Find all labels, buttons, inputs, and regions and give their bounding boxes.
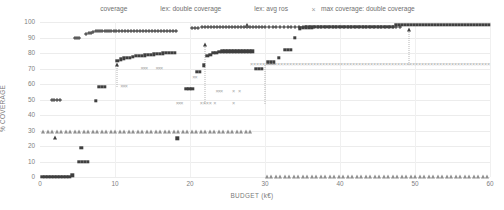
x-tick-label: 10 xyxy=(111,181,118,187)
data-point: × xyxy=(259,63,262,68)
scatter-chart: coverage lex: double coverage lex: avg r… xyxy=(0,0,504,210)
x-tick-label: 0 xyxy=(38,181,42,187)
data-point: × xyxy=(125,84,128,89)
data-point: × xyxy=(454,63,457,68)
data-point: × xyxy=(120,84,123,89)
data-point: × xyxy=(367,63,370,68)
data-point: × xyxy=(232,101,235,106)
data-point: × xyxy=(160,66,163,71)
data-point: × xyxy=(451,63,454,68)
data-point: × xyxy=(424,63,427,68)
x-marker-icon: × xyxy=(310,6,317,13)
data-point: × xyxy=(307,63,310,68)
data-point: × xyxy=(352,63,355,68)
data-point: × xyxy=(283,63,286,68)
data-point: × xyxy=(391,63,394,68)
data-point: × xyxy=(400,63,403,68)
data-point: × xyxy=(415,63,418,68)
data-point: × xyxy=(439,63,442,68)
data-point: × xyxy=(203,101,206,106)
y-tick-label: 10 xyxy=(28,158,35,164)
data-point: × xyxy=(180,101,183,106)
legend-item-lex-avg-ros[interactable]: lex: avg ros xyxy=(243,6,288,13)
gridline xyxy=(40,177,490,178)
data-point: × xyxy=(349,63,352,68)
data-point: × xyxy=(289,63,292,68)
data-point: × xyxy=(361,63,364,68)
legend-item-coverage[interactable]: coverage xyxy=(89,6,127,13)
data-point: × xyxy=(358,63,361,68)
data-point: × xyxy=(232,89,235,94)
data-point: × xyxy=(220,89,223,94)
legend-label: lex: double coverage xyxy=(160,6,221,13)
data-point: × xyxy=(406,63,409,68)
data-point: × xyxy=(388,63,391,68)
data-point: × xyxy=(301,63,304,68)
data-point: × xyxy=(370,63,373,68)
series-max-coverage-double-coverage: ××××××××××××××××××××××××××××××××××××××××… xyxy=(40,22,490,177)
data-point: × xyxy=(213,101,216,106)
data-point: × xyxy=(250,63,253,68)
data-point: × xyxy=(176,101,179,106)
data-point: × xyxy=(436,63,439,68)
data-point: × xyxy=(481,63,484,68)
data-point: × xyxy=(322,63,325,68)
legend-label: coverage xyxy=(100,6,127,13)
gridline xyxy=(490,22,491,177)
diamond-marker-icon xyxy=(89,6,96,13)
data-point: × xyxy=(313,63,316,68)
data-point: × xyxy=(421,63,424,68)
data-point: × xyxy=(355,63,358,68)
x-axis-label: BUDGET (k€) xyxy=(0,192,504,199)
data-point: × xyxy=(325,63,328,68)
data-point: × xyxy=(292,63,295,68)
y-tick-label: 80 xyxy=(28,50,35,56)
chart-legend: coverage lex: double coverage lex: avg r… xyxy=(0,2,504,16)
data-point: × xyxy=(271,63,274,68)
data-point: × xyxy=(373,63,376,68)
data-point: × xyxy=(394,63,397,68)
legend-item-max-coverage-double-coverage[interactable]: × max coverage: double coverage xyxy=(310,6,415,13)
data-point: × xyxy=(478,63,481,68)
data-point: × xyxy=(310,63,313,68)
x-tick-label: 20 xyxy=(186,181,193,187)
data-point: × xyxy=(343,63,346,68)
data-point: × xyxy=(403,63,406,68)
y-tick-label: 40 xyxy=(28,112,35,118)
data-point: × xyxy=(206,101,209,106)
x-tick-label: 50 xyxy=(411,181,418,187)
legend-item-lex-double-coverage[interactable]: lex: double coverage xyxy=(149,6,221,13)
data-point: × xyxy=(382,63,385,68)
data-point: × xyxy=(295,63,298,68)
legend-label: max coverage: double coverage xyxy=(321,6,415,13)
data-point: × xyxy=(218,89,221,94)
data-point: × xyxy=(155,66,158,71)
data-point: × xyxy=(346,63,349,68)
data-point: × xyxy=(379,63,382,68)
data-point: × xyxy=(418,63,421,68)
data-point: × xyxy=(265,63,268,68)
data-point: × xyxy=(484,63,487,68)
data-point: × xyxy=(298,63,301,68)
data-point: × xyxy=(448,63,451,68)
data-point: × xyxy=(178,101,181,106)
x-tick-label: 60 xyxy=(486,181,493,187)
data-point: × xyxy=(385,63,388,68)
data-point: × xyxy=(460,63,463,68)
data-point: × xyxy=(215,89,218,94)
triangle-marker-icon xyxy=(243,6,250,13)
data-point: × xyxy=(487,63,490,68)
y-tick-label: 100 xyxy=(24,19,35,25)
data-point: × xyxy=(376,63,379,68)
data-point: × xyxy=(277,63,280,68)
data-point: × xyxy=(145,66,148,71)
data-point: × xyxy=(158,66,161,71)
data-point: × xyxy=(397,63,400,68)
data-point: × xyxy=(319,63,322,68)
plot-area: 0102030405060708090100 0102030405060 ×××… xyxy=(40,22,490,177)
y-axis-label: % COVERAGE xyxy=(0,85,6,132)
data-point: × xyxy=(412,63,415,68)
data-point: × xyxy=(209,101,212,106)
data-point: × xyxy=(457,63,460,68)
data-point: × xyxy=(200,101,203,106)
